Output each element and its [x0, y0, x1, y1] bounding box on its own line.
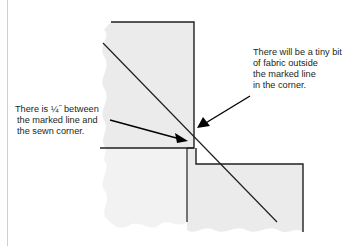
fabric-piece-bottom-right	[187, 148, 303, 232]
callout-right-line-2: of fabric outside	[253, 58, 342, 69]
callout-right-line-1: There will be a tiny bit	[253, 47, 342, 58]
callout-arrow-right-head	[197, 117, 210, 128]
callout-left-line-2: the marked line and	[15, 115, 99, 126]
fabric-piece-bottom-left	[102, 148, 187, 228]
callout-text-right: There will be a tiny bit of fabric outsi…	[253, 47, 342, 91]
callout-text-left: There is ¼˝ between the marked line and …	[15, 104, 99, 137]
callout-arrow-right-shaft	[204, 96, 250, 124]
callout-left-line-1: There is ¼˝ between	[15, 104, 99, 115]
callout-right-line-4: in the corner.	[253, 80, 342, 91]
callout-left-line-3: the sewn corner.	[15, 126, 99, 137]
callout-right-line-3: the marked line	[253, 69, 342, 80]
fabric-piece-top-left	[102, 22, 194, 148]
